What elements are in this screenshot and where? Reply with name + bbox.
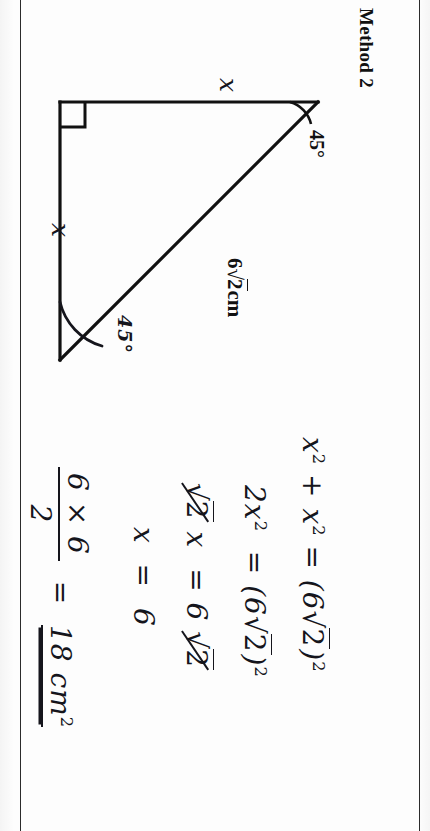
radical-sign: √ — [238, 616, 271, 635]
w1-exp: 2 — [309, 454, 328, 464]
w2-exp: 2 — [251, 521, 270, 531]
angle-label-bottom: 45° — [114, 315, 136, 354]
w2-equals: = — [238, 551, 271, 575]
w1-x: x — [296, 437, 329, 454]
answer-unit: cm — [44, 673, 77, 717]
leg-label-left: x — [46, 223, 75, 237]
w2-rcoef: 6 — [238, 597, 271, 616]
w3-x: x — [180, 532, 213, 549]
w1-open: ( — [296, 580, 329, 592]
w3-rhs-radicand: 2 — [180, 649, 214, 670]
w2-coef: 2 — [238, 485, 271, 504]
triangle-figure: 45° 6√2cm x x 45° — [28, 30, 348, 410]
hypotenuse-label: 6√2cm — [222, 258, 247, 317]
w4-value: 6 — [127, 608, 160, 627]
answer-value: 18 — [44, 625, 77, 663]
w2-open: ( — [238, 585, 271, 597]
sqrt-icon: √2 — [180, 631, 214, 670]
radical-sign: √ — [296, 611, 329, 630]
cancelled-sqrt-right: √2 — [180, 631, 214, 670]
w1-radicand: 2 — [296, 628, 330, 649]
w2-close: ) — [238, 655, 271, 667]
sqrt-icon: √2 — [238, 616, 272, 655]
w2-x: x — [238, 504, 271, 521]
radical-sign: √ — [180, 631, 213, 650]
w3-equals: = — [180, 568, 213, 592]
radical-sign: √ — [180, 483, 213, 502]
w1-rhs-exp: 2 — [309, 661, 328, 671]
sqrt-icon: √2 — [296, 611, 330, 650]
w2-rhs-exp: 2 — [251, 667, 270, 677]
sqrt-icon: √2 — [180, 483, 214, 522]
w3-radicand: 2 — [180, 501, 214, 522]
hyp-unit: cm — [223, 291, 247, 318]
worksheet-page: Method 2 45° 6√2cm x x 45° x2 + x2 — [0, 0, 430, 831]
w1-exp2: 2 — [309, 525, 328, 535]
working-line-3: √2 x = 6 √2 — [180, 483, 214, 670]
right-angle-marker — [60, 102, 85, 127]
w1-coef: 6 — [296, 592, 329, 611]
w1-close: ) — [296, 649, 329, 661]
working-line-4: x = 6 — [127, 527, 160, 627]
angle-label-right: 45° — [305, 130, 328, 158]
w1-equals: = — [296, 545, 329, 569]
fraction-numerator: 6 × 6 — [63, 467, 92, 561]
page-title: Method 2 — [351, 8, 381, 148]
working-line-5: 6 × 62 = 18 cm2 — [25, 467, 92, 727]
hyp-coefficient: 6 — [223, 258, 247, 269]
working-line-2: 2x2 = (6√2)2 — [238, 485, 272, 677]
w2-radicand: 2 — [238, 634, 272, 655]
hyp-radicand: 2 — [223, 279, 248, 291]
triangle-hypotenuse — [60, 102, 318, 360]
w1-x2: x — [296, 508, 329, 525]
working-line-1: x2 + x2 = (6√2)2 — [296, 437, 330, 672]
handwritten-working: x2 + x2 = (6√2)2 2x2 = (6√2)2 √2 x = 6 √… — [0, 415, 430, 831]
final-answer: 18 cm2 — [41, 625, 77, 727]
w4-x: x — [127, 527, 160, 544]
w4-equals: = — [127, 564, 160, 588]
w3-coef: 6 — [180, 603, 213, 622]
answer-unit-exp: 2 — [57, 717, 76, 727]
w5-equals: = — [44, 581, 77, 605]
fraction-bar — [58, 467, 60, 561]
sqrt-icon: √2 — [222, 269, 247, 291]
w1-plus: + — [296, 474, 329, 498]
area-fraction: 6 × 62 — [25, 467, 92, 561]
leg-label-top: x — [214, 78, 243, 92]
cancelled-sqrt-left: √2 — [180, 483, 214, 522]
triangle-svg — [28, 30, 348, 410]
fraction-denominator: 2 — [25, 467, 54, 561]
